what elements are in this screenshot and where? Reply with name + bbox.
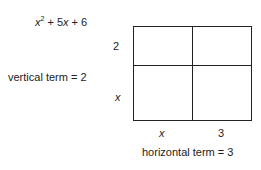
col-label-right: 3 <box>218 127 224 139</box>
col-label-left: x <box>159 127 165 139</box>
expr-tail: + 6 <box>69 16 88 28</box>
row-label-bottom: x <box>115 91 121 103</box>
row-label-top: 2 <box>113 40 119 52</box>
expr-middle: + 5 <box>44 16 63 28</box>
grid-vertical-divider <box>192 27 193 120</box>
polynomial-expression: x2 + 5x + 6 <box>35 16 87 28</box>
horizontal-term-label: horizontal term = 3 <box>142 146 233 158</box>
vertical-term-label: vertical term = 2 <box>8 71 87 83</box>
grid-horizontal-divider <box>134 65 251 66</box>
area-model-grid <box>133 26 252 121</box>
